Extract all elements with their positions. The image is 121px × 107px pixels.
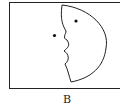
figure-label: B: [0, 93, 120, 106]
dot-inside-shape: [74, 19, 77, 22]
crescent-face-shape: [61, 5, 106, 82]
dot-outside-shape: [53, 34, 56, 37]
diagram-figure: [0, 0, 120, 107]
frame-rectangle: [10, 3, 121, 89]
